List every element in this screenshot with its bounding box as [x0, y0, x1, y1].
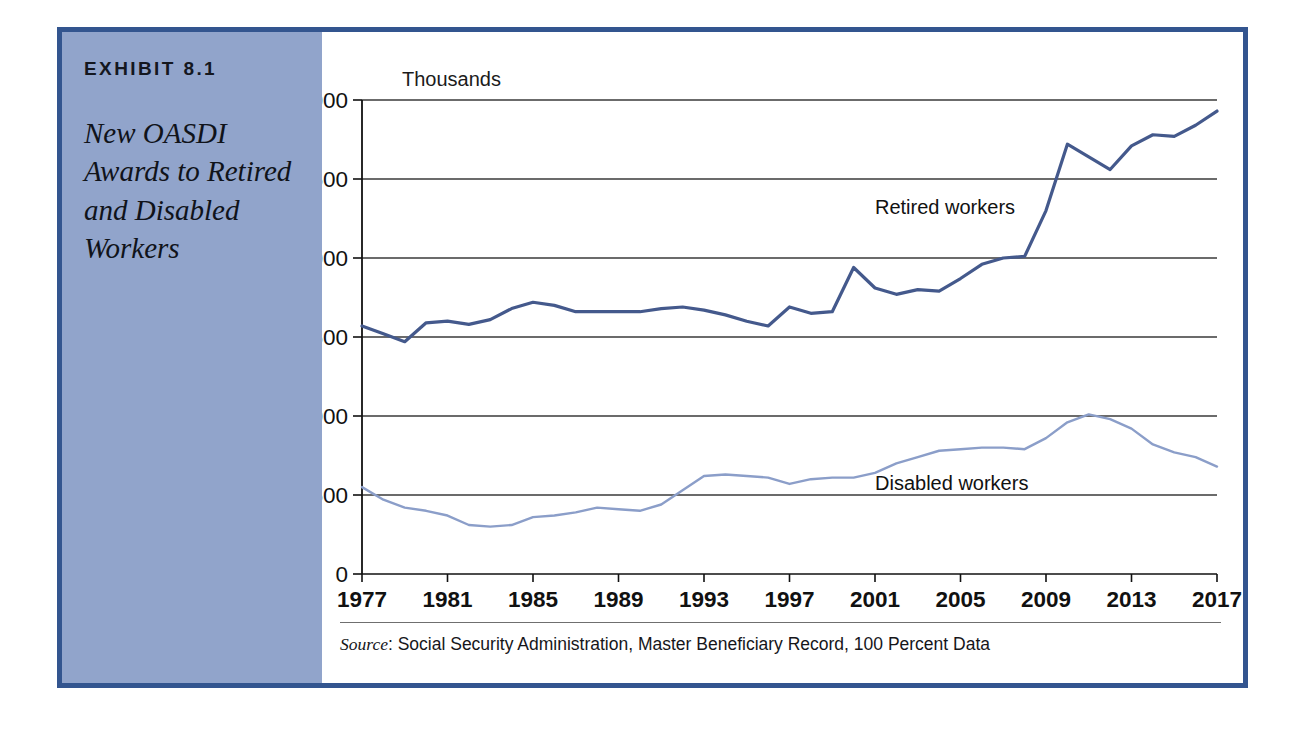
series-label: Retired workers: [875, 196, 1015, 218]
gridlines: [362, 100, 1217, 495]
x-tick-label: 1981: [422, 587, 472, 612]
series-label: Disabled workers: [875, 472, 1028, 494]
y-tick-label: 1,000: [322, 404, 348, 429]
exhibit-number-label: EXHIBIT 8.1: [84, 58, 300, 80]
y-tick-label: 2,000: [322, 246, 348, 271]
x-tick-label: 2001: [850, 587, 900, 612]
series-line: [362, 111, 1217, 342]
x-axis: 1977198119851989199319972001200520092013…: [337, 574, 1242, 612]
source-divider: [340, 622, 1221, 623]
series-line: [362, 414, 1217, 526]
x-tick-label: 1989: [593, 587, 643, 612]
x-tick-label: 2013: [1106, 587, 1156, 612]
x-tick-label: 2009: [1021, 587, 1071, 612]
x-tick-label: 1985: [508, 587, 558, 612]
exhibit-title: New OASDI Awards to Retired and Disabled…: [84, 114, 300, 267]
x-tick-label: 2017: [1192, 587, 1242, 612]
x-tick-label: 1993: [679, 587, 729, 612]
x-tick-label: 2005: [935, 587, 985, 612]
y-tick-label: 0: [335, 562, 348, 587]
data-series: [362, 111, 1217, 527]
y-tick-label: 3,000: [322, 88, 348, 113]
y-tick-label: 1,500: [322, 325, 348, 350]
source-note: Source: Social Security Administration, …: [340, 634, 990, 655]
y-tick-label: 2,500: [322, 167, 348, 192]
exhibit-frame: EXHIBIT 8.1 New OASDI Awards to Retired …: [57, 27, 1248, 688]
y-tick-label: 500: [322, 483, 348, 508]
source-prefix: Source: [340, 634, 388, 654]
chart-panel: Thousands 05001,0001,5002,0002,5003,000 …: [322, 32, 1243, 683]
line-chart: 05001,0001,5002,0002,5003,000 1977198119…: [322, 32, 1243, 683]
source-text: : Social Security Administration, Master…: [388, 634, 990, 654]
exhibit-caption-panel: EXHIBIT 8.1 New OASDI Awards to Retired …: [62, 32, 322, 683]
x-tick-label: 1977: [337, 587, 387, 612]
x-tick-label: 1997: [764, 587, 814, 612]
y-axis: 05001,0001,5002,0002,5003,000: [322, 88, 362, 587]
